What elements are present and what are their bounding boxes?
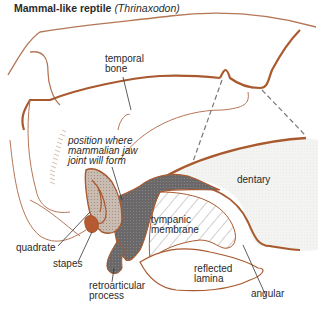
orbit-outline (120, 92, 248, 160)
skull-diagram (0, 0, 324, 310)
skull-roof-outline (8, 13, 316, 105)
label-quadrate: quadrate (16, 243, 55, 253)
label-stapes: stapes (53, 259, 82, 269)
label-angular: angular (251, 289, 284, 299)
label-tympanic-membrane: tympanic membrane (151, 215, 199, 235)
label-retroarticular-process: retroarticular process (89, 281, 145, 301)
label-dentary: dentary (237, 175, 270, 185)
temporal-bone-outline (22, 30, 300, 130)
cartilage-hatch (50, 130, 66, 184)
label-jaw-joint-position: position where mammalian jaw joint will … (68, 136, 137, 166)
label-reflected-lamina: reflected lamina (194, 264, 232, 284)
stapes-bone (85, 216, 99, 233)
label-temporal-bone: temporal bone (105, 54, 144, 74)
